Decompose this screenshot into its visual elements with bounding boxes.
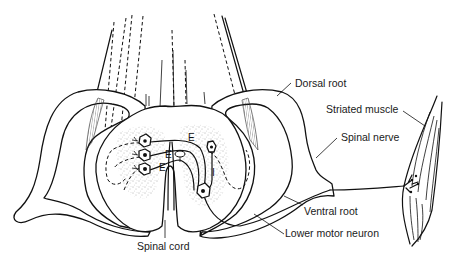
excitatory-marker: E <box>188 132 195 143</box>
label-spinal-nerve: Spinal nerve <box>341 131 399 143</box>
striated-muscle <box>402 96 442 246</box>
excitatory-marker: E <box>165 149 172 160</box>
inhibitory-marker: I <box>212 167 215 178</box>
spinal-cord-body <box>96 105 246 231</box>
label-ventral-root: Ventral root <box>304 205 358 217</box>
label-striated-muscle: Striated muscle <box>326 103 398 115</box>
excitatory-marker: E <box>159 162 166 173</box>
label-lower-motor-neuron: Lower motor neuron <box>285 227 379 239</box>
diagram-drawing: E E E I <box>0 0 453 256</box>
label-dorsal-root: Dorsal root <box>295 77 346 89</box>
label-spinal-cord: Spinal cord <box>137 240 190 252</box>
spinal-cord-diagram: E E E I <box>0 0 453 256</box>
